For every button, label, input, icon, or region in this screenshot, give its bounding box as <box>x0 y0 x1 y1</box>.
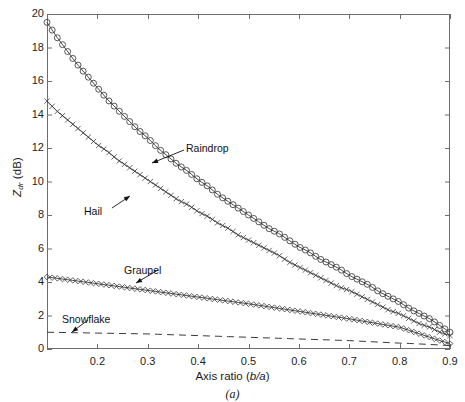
annotation-graupel: Graupel <box>124 265 161 276</box>
x-tick-label: 0.5 <box>229 356 269 367</box>
x-axis-title-prefix: Axis ratio ( <box>195 370 249 382</box>
x-tick-label: 0.6 <box>279 356 319 367</box>
figure-caption: (a) <box>0 387 465 402</box>
x-axis-title-ratio: b/a <box>250 370 266 382</box>
x-tick-label: 0.4 <box>178 356 218 367</box>
y-axis-title: Zdr (dB) <box>11 137 25 217</box>
annotation-hail: Hail <box>84 206 102 217</box>
x-tick-label: 0.3 <box>128 356 168 367</box>
y-axis-title-symbol: Z <box>11 190 23 197</box>
x-tick-label: 0.8 <box>380 356 420 367</box>
x-tick-label: 0.2 <box>77 356 117 367</box>
annotation-snowflake: Snowflake <box>62 314 110 325</box>
y-axis-title-unit: (dB) <box>11 157 23 182</box>
x-axis-title-suffix: ) <box>266 370 270 382</box>
x-axis-title: Axis ratio (b/a) <box>0 370 465 382</box>
y-axis-title-subscript: dr <box>16 182 25 189</box>
annotation-raindrop: Raindrop <box>186 143 229 154</box>
x-tick-label: 0.7 <box>329 356 369 367</box>
x-tick-label: 0.9 <box>430 356 465 367</box>
